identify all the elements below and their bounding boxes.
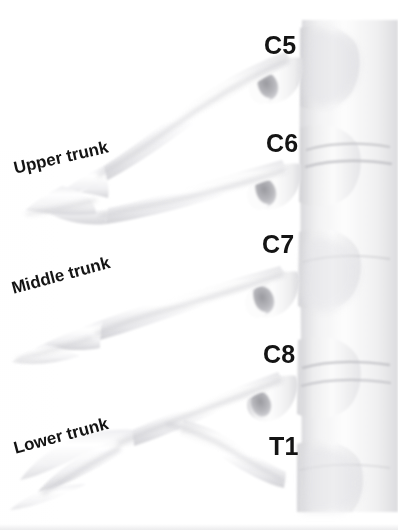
bottom-edge-strip xyxy=(0,524,398,530)
vertebra-label-c7: C7 xyxy=(262,232,294,257)
vertebra-label-t1: T1 xyxy=(269,434,299,459)
vertebra-label-c5: C5 xyxy=(264,33,296,58)
vertebra-label-c8: C8 xyxy=(263,342,295,367)
vertebra-label-c6: C6 xyxy=(266,131,298,156)
anatomical-figure: C5 C6 C7 C8 T1 Upper trunk Middle trunk … xyxy=(0,0,398,530)
